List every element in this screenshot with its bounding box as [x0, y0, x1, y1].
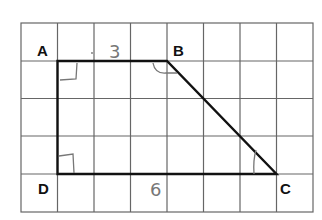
- side-length-ab: 3: [109, 41, 120, 62]
- right-angle-marks: [59, 63, 256, 174]
- pencil-dot: [91, 52, 93, 54]
- right-angle-mark-d: [59, 154, 74, 173]
- vertex-label-a: A: [37, 42, 48, 59]
- vertex-label-b: B: [173, 42, 184, 59]
- trapezoid-diagram: A B C D 3 6: [0, 0, 322, 220]
- side-length-dc: 6: [150, 179, 161, 200]
- right-angle-mark-a: [60, 63, 77, 80]
- grid: [21, 23, 313, 212]
- vertex-label-d: D: [38, 180, 49, 197]
- vertex-label-c: C: [280, 180, 291, 197]
- angle-mark-c: [254, 150, 256, 174]
